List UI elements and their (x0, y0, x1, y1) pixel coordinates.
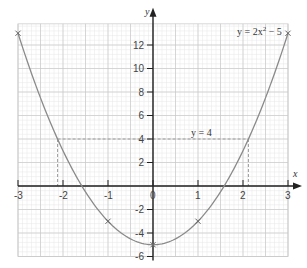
y-tick-label: 10 (133, 63, 145, 74)
hline-label: y = 4 (191, 127, 212, 138)
y-tick-label: -4 (135, 228, 144, 239)
x-tick-label: -1 (104, 190, 113, 201)
x-tick-label: 2 (240, 190, 246, 201)
y-tick-label: -6 (135, 251, 144, 262)
x-axis-label: x (292, 168, 298, 179)
x-tick-label: 0 (150, 190, 156, 201)
y-tick-label: 6 (138, 110, 144, 121)
y-tick-label: 12 (133, 40, 145, 51)
x-tick-label: -3 (14, 190, 23, 201)
x-tick-label: -2 (59, 190, 68, 201)
curve-equation-label: y = 2x2 − 5 (237, 25, 282, 37)
y-tick-label: -2 (135, 204, 144, 215)
chart: -3-2-10123-6-4-224681012 y x y = 2x2 − 5… (0, 0, 307, 268)
x-tick-label: 3 (285, 190, 291, 201)
y-tick-label: 8 (138, 87, 144, 98)
y-tick-label: 4 (138, 134, 144, 145)
y-tick-label: 2 (138, 157, 144, 168)
x-tick-label: 1 (195, 190, 201, 201)
y-axis-label: y (144, 6, 150, 17)
